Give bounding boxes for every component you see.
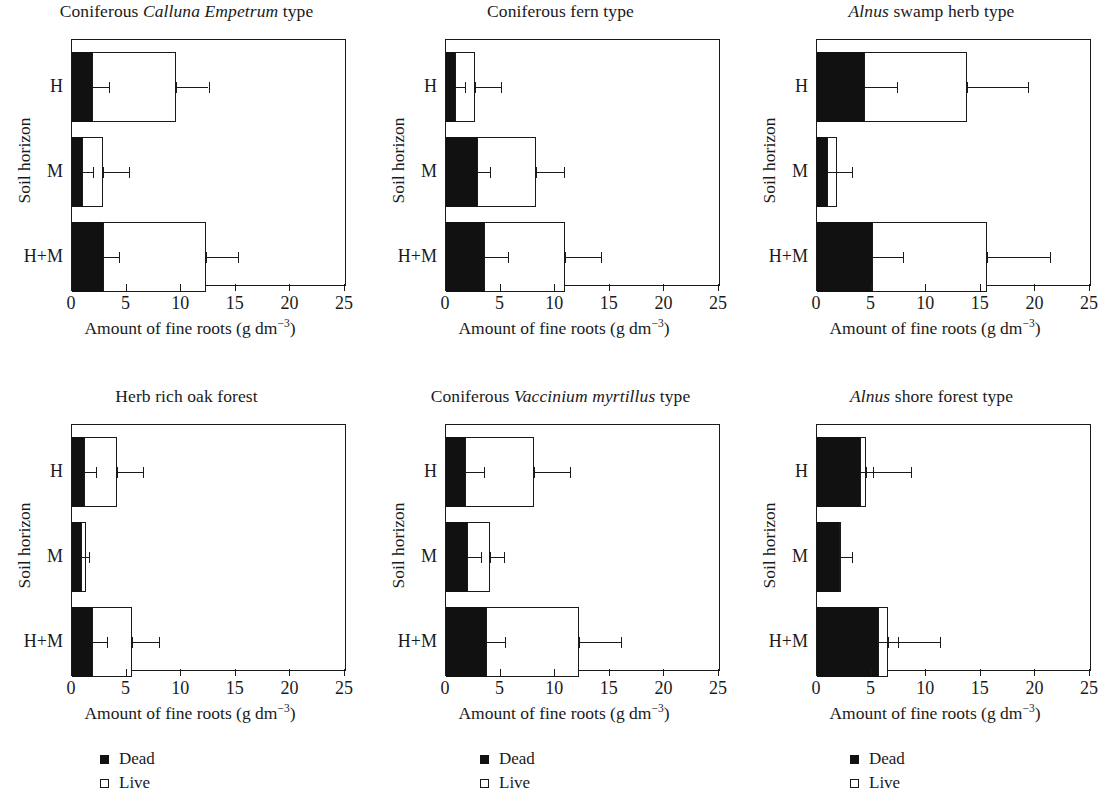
x-axis-tick-label: 15 <box>226 677 244 699</box>
error-bar-cap-dead <box>465 82 466 93</box>
x-axis-tick <box>500 669 501 676</box>
panel-title-prefix: Coniferous <box>431 386 514 406</box>
open-square-icon <box>100 779 109 788</box>
panel-title: Coniferous Calluna Empetrum type <box>0 0 373 22</box>
y-category-label: H+M <box>3 631 63 651</box>
legend-panel-1: DeadLive <box>100 747 155 795</box>
bar-segment-dead <box>72 437 84 507</box>
error-bar-cap-total <box>159 637 160 648</box>
panel-title: Herb rich oak forest <box>0 385 373 407</box>
bar-row <box>72 522 345 592</box>
x-axis-ticks <box>71 284 344 292</box>
y-category-label: M <box>3 161 63 181</box>
error-bar-cap-total <box>601 252 602 263</box>
error-bar-cap-total <box>570 467 571 478</box>
error-bar-total <box>536 172 564 173</box>
error-bar-cap-total <box>1050 252 1051 263</box>
x-axis-ticks <box>816 284 1089 292</box>
x-axis-title-main: Amount of fine roots (g dm <box>458 318 651 338</box>
error-bar-cap-dead <box>505 637 506 648</box>
error-bar-cap-total <box>238 252 239 263</box>
error-bar-cap-dead <box>864 82 865 93</box>
error-bar-dead <box>92 642 107 643</box>
bar-row <box>817 607 1090 677</box>
error-bar-cap-total <box>1028 82 1029 93</box>
panel-title-suffix: type <box>655 386 690 406</box>
error-bar-total <box>967 87 1028 88</box>
x-axis-tick-label: 15 <box>600 292 618 314</box>
bar-segment-dead <box>446 522 467 592</box>
error-bar-cap-dead <box>89 552 90 563</box>
legend-item-live: Live <box>850 771 905 795</box>
plot-area <box>816 424 1091 671</box>
x-axis-ticks <box>71 669 344 677</box>
error-bar-cap-dead <box>92 637 93 648</box>
bar-row <box>446 137 719 207</box>
x-axis-tick <box>445 669 446 676</box>
x-axis-tick-label: 5 <box>866 292 875 314</box>
error-bar-cap-total <box>117 467 118 478</box>
x-axis-tick-label: 15 <box>971 677 989 699</box>
error-bar-cap-dead <box>109 82 110 93</box>
x-axis-tick-label: 0 <box>441 677 450 699</box>
x-axis-title-exponent: −3 <box>651 702 663 714</box>
x-axis-tick <box>289 284 290 291</box>
x-axis-tick-label: 25 <box>1080 292 1098 314</box>
error-bar-total <box>103 172 129 173</box>
y-category-label: H <box>3 76 63 96</box>
error-bar-cap-total <box>987 252 988 263</box>
legend-panel-2: DeadLive <box>480 747 535 795</box>
error-bar-total <box>132 642 159 643</box>
error-bar-cap-dead <box>897 82 898 93</box>
bars-container <box>72 425 345 670</box>
panel-title-species: Vaccinium myrtillus <box>514 386 655 406</box>
error-bar-cap-dead <box>827 167 828 178</box>
bars-container <box>446 425 719 670</box>
error-bar-cap-dead <box>84 467 85 478</box>
x-axis-tick <box>445 284 446 291</box>
x-axis-tick-label: 5 <box>495 292 504 314</box>
bars-container <box>72 40 345 285</box>
bar-row <box>72 137 345 207</box>
error-bar-cap-total <box>206 252 207 263</box>
error-bar-cap-dead <box>878 637 879 648</box>
x-axis-tick <box>344 284 345 291</box>
error-bar-cap-dead <box>103 252 104 263</box>
x-axis-tick-label: 25 <box>709 292 727 314</box>
x-axis-tick <box>663 284 664 291</box>
x-axis-tick <box>816 284 817 291</box>
x-axis-tick <box>235 669 236 676</box>
error-bar-cap-dead <box>481 552 482 563</box>
error-bar-dead <box>486 642 505 643</box>
bar-row <box>446 52 719 122</box>
x-axis-title: Amount of fine roots (g dm−3) <box>374 317 754 339</box>
panel-title-species: Alnus <box>849 1 889 21</box>
legend-label: Live <box>119 771 150 795</box>
x-axis-tick <box>1089 669 1090 676</box>
legend-label: Dead <box>119 747 155 771</box>
x-axis-tick-label: 0 <box>441 292 450 314</box>
x-axis-tick-label: 5 <box>121 677 130 699</box>
error-bar-total <box>475 87 500 88</box>
bar-row <box>817 522 1090 592</box>
bar-segment-dead <box>72 137 82 207</box>
error-bar-cap-total <box>534 467 535 478</box>
error-bar-cap-total <box>536 167 537 178</box>
open-square-icon <box>480 779 489 788</box>
bar-segment-dead <box>446 222 484 292</box>
x-axis-tick-label: 5 <box>866 677 875 699</box>
error-bar-cap-dead <box>860 467 861 478</box>
error-bar-total <box>579 642 620 643</box>
x-axis-ticks <box>445 284 718 292</box>
bars-container <box>817 425 1090 670</box>
x-axis-tick-labels: 0510152025 <box>71 292 344 316</box>
chart-panel-coniferous-calluna-empetrum: Coniferous Calluna Empetrum typeSoil hor… <box>0 0 373 385</box>
x-axis-tick <box>344 669 345 676</box>
x-axis-tick-label: 0 <box>812 292 821 314</box>
x-axis-tick <box>980 284 981 291</box>
x-axis-title-close: ) <box>664 318 670 338</box>
x-axis-tick <box>554 284 555 291</box>
error-bar-cap-total <box>579 637 580 648</box>
y-category-label: H+M <box>377 246 437 266</box>
error-bar-cap-total <box>621 637 622 648</box>
